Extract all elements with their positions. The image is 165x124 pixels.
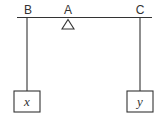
label-b: B <box>24 3 32 17</box>
label-a: A <box>64 3 72 17</box>
label-c: C <box>136 3 145 17</box>
lever-diagram: B A C x y <box>0 0 165 124</box>
fulcrum-triangle-icon <box>62 20 74 30</box>
weight-x-label: x <box>23 94 30 109</box>
weight-y-label: y <box>135 94 143 109</box>
